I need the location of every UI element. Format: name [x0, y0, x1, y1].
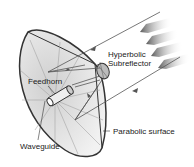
label-waveguide: Waveguide	[20, 142, 60, 151]
label-hyperbolic: Hyperbolic	[108, 50, 146, 59]
label-subreflector: Subreflector	[108, 59, 151, 68]
label-parabolic-surface: Parabolic surface	[113, 127, 175, 136]
label-feedhorn: Feedhorn	[28, 77, 62, 86]
